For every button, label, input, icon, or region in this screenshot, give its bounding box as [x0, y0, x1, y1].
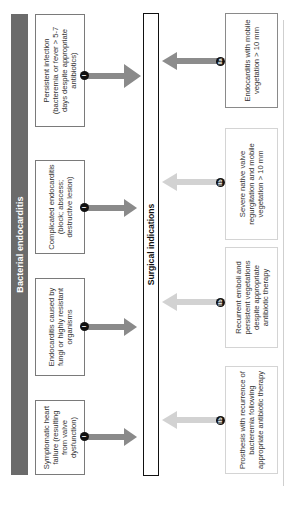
arrow-icon	[84, 425, 142, 449]
left-box-heart-failure: Symptomatic heart failure (resulting fro…	[35, 400, 85, 475]
arrow-icon	[160, 290, 223, 314]
class-badge: I	[80, 432, 89, 441]
right-box-text: Endocarditis with mobile vegetation > 10…	[243, 17, 261, 104]
left-box-text: Symptomatic heart failure (resulting fro…	[42, 404, 78, 471]
right-box-severe-regurgitation: Severe native valve regurgitation and mo…	[225, 128, 278, 240]
right-box-text: Prosthesis with recurrence of bacteremia…	[238, 370, 265, 470]
class-badge: IIb	[216, 416, 225, 425]
header-title: Bacterial endocarditis	[15, 196, 25, 292]
center-label: Surgical indications	[146, 204, 156, 286]
diagram-canvas: Bacterial endocarditis Persistent infect…	[0, 0, 287, 506]
arrow-icon	[160, 170, 223, 194]
class-badge: IIa	[216, 57, 225, 66]
left-box-text: Endocarditis caused by fungi or highly r…	[47, 282, 74, 372]
arrow-icon	[84, 196, 142, 220]
divider	[283, 20, 284, 486]
arrow-icon	[160, 408, 223, 432]
left-box-text: Persistent infection (bacteremia or feve…	[42, 18, 78, 123]
right-box-text: Recurrent emboli and persistent vegetati…	[234, 251, 270, 344]
surgical-indications-box: Surgical indications	[143, 13, 159, 476]
class-badge: IIb	[216, 298, 225, 307]
arrow-icon	[84, 64, 142, 88]
class-badge: I	[80, 203, 89, 212]
right-box-mobile-vegetation: Endocarditis with mobile vegetation > 10…	[225, 13, 278, 108]
header-bar: Bacterial endocarditis	[11, 14, 28, 475]
left-box-fungi-organisms: Endocarditis caused by fungi or highly r…	[35, 278, 85, 376]
class-badge: IIb	[216, 178, 225, 187]
class-badge: I	[80, 71, 89, 80]
right-box-text: Severe native valve regurgitation and mo…	[238, 132, 265, 236]
right-box-recurrent-emboli: Recurrent emboli and persistent vegetati…	[225, 247, 278, 348]
arrow-icon	[160, 49, 223, 73]
right-box-prosthesis: Prosthesis with recurrence of bacteremia…	[225, 366, 278, 474]
class-badge: I	[80, 322, 89, 331]
left-box-complicated-endocarditis: Complicated endocarditis (block; abscess…	[35, 160, 85, 254]
left-box-text: Complicated endocarditis (block; abscess…	[47, 164, 74, 250]
left-box-persistent-infection: Persistent infection (bacteremia or feve…	[35, 14, 85, 127]
arrow-icon	[84, 315, 142, 339]
